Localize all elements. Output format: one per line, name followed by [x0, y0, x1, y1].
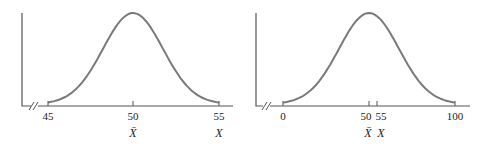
tick-label-55: 55 [376, 110, 388, 122]
tick-label-50: 50 [128, 110, 140, 122]
x-symbol: X [214, 126, 223, 140]
tick-label-45: 45 [43, 110, 55, 122]
chart-left: 45 50 55 X̄ X [22, 13, 233, 140]
y-axis [22, 13, 31, 106]
axis-break-icon [262, 102, 271, 110]
x-symbol: X [376, 126, 385, 140]
y-axis [256, 13, 263, 106]
chart-right: 0 50 55 100 X̄ X [256, 13, 470, 140]
tick-label-50: 50 [361, 110, 373, 122]
mean-symbol: X̄ [363, 126, 372, 140]
tick-label-0: 0 [280, 110, 286, 122]
mean-symbol: X̄ [128, 126, 137, 140]
tick-label-100: 100 [447, 110, 464, 122]
normal-curve [283, 13, 455, 103]
normal-curve [48, 13, 219, 103]
figure: 45 50 55 X̄ X 0 50 55 100 X̄ X [0, 0, 484, 150]
tick-label-55: 55 [214, 110, 226, 122]
